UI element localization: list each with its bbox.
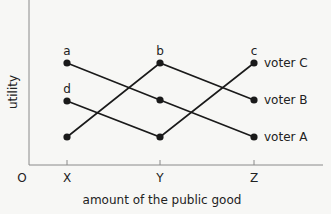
point-z-middle: [250, 96, 257, 103]
tick-label-z: Z: [250, 171, 258, 185]
y-axis-label: utility: [6, 75, 20, 109]
point-d: [63, 97, 70, 104]
legend-voter-b: voter B: [264, 93, 308, 107]
x-axis-label: amount of the public good: [83, 193, 242, 207]
chart: utility O X Y Z amount of the public goo…: [0, 0, 331, 214]
point-label-b: b: [156, 44, 164, 58]
point-label-a: a: [63, 44, 70, 58]
legend-voter-a: voter A: [264, 130, 308, 144]
point-label-d: d: [63, 82, 71, 96]
point-z-bottom: [250, 133, 257, 140]
point-c: [250, 59, 257, 66]
legend-voter-c: voter C: [264, 56, 308, 70]
point-y-middle: [156, 96, 163, 103]
point-y-bottom: [156, 133, 163, 140]
tick-label-x: X: [63, 171, 71, 185]
origin-label: O: [17, 171, 26, 185]
tick-label-y: Y: [155, 171, 164, 185]
point-label-c: c: [251, 44, 258, 58]
point-b: [156, 59, 163, 66]
point-x-bottom: [63, 133, 70, 140]
point-a: [63, 59, 70, 66]
